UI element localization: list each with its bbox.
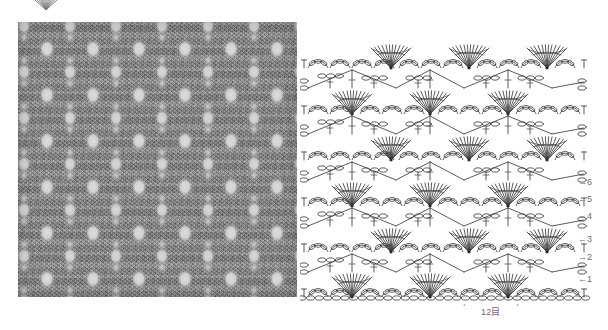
chart-row-upper-d [300, 70, 586, 90]
crochet-fabric-photo [18, 22, 297, 297]
photo-vignette [18, 22, 297, 297]
row-label-3: ←3 [578, 235, 592, 244]
chart-row-upper-b [300, 116, 586, 136]
row-label-1: ←1 [578, 275, 592, 284]
row-label-2: →2 [578, 253, 592, 262]
stitch-diagram-svg [300, 14, 590, 306]
chart-row-6 [300, 162, 586, 182]
repeat-brace [464, 304, 518, 306]
chart-row-5 [301, 183, 586, 208]
row-label-4: →4 [578, 212, 592, 221]
chart-row-3 [301, 229, 586, 254]
foundation-chain-count: 12目 [481, 307, 501, 317]
chart-row-upper-c [301, 91, 586, 116]
foundation-chain-row [300, 296, 590, 306]
row-label-5: ←5 [578, 195, 592, 204]
chart-row-upper-a [301, 137, 586, 162]
stitch-diagram [300, 14, 590, 304]
chart-row-1 [301, 274, 586, 299]
chart-row-4 [300, 208, 586, 228]
chart-row-top [301, 45, 586, 70]
fan-shell-motif-icon [18, 0, 74, 10]
row-label-6: →6 [578, 178, 592, 187]
chart-row-2 [300, 254, 586, 274]
row-number-legend: →6 ←5 →4 ←3 →2 ←1 [578, 178, 608, 288]
